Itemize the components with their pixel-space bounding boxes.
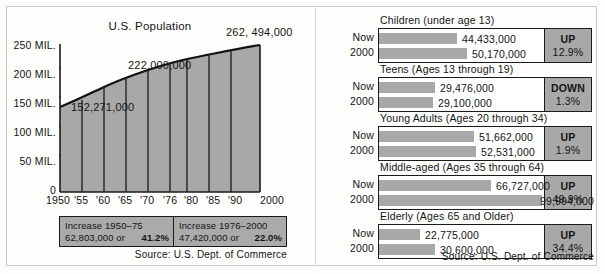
group-title: Elderly (Ages 65 and Older) [380, 210, 514, 222]
row-label-future: 2000 [322, 143, 374, 158]
row-series-labels: Now 2000 [322, 175, 374, 207]
annotation-mid-value: 222,000,000 [128, 59, 191, 71]
row-label-now: Now [322, 177, 374, 192]
bar-now [379, 180, 491, 191]
chart-title: U.S. Population [70, 20, 230, 32]
row-label-future: 2000 [322, 45, 374, 60]
infographic-page: U.S. Population 250 MIL. 200 MIL. 150 MI… [0, 0, 605, 274]
increase-summary-box: Increase 1950–75 62,803,000 or 41.2% Inc… [59, 216, 287, 247]
bar-future [379, 195, 542, 206]
row-series-labels: Now 2000 [322, 28, 374, 60]
trend-direction: UP [561, 131, 576, 144]
row-series-labels: Now 2000 [322, 77, 374, 109]
trend-direction: UP [561, 33, 576, 46]
bar-value-now: 22,775,000 [425, 229, 479, 241]
x-tick-55: '55 [74, 194, 88, 206]
annotation-end-value: 262, 494,000 [226, 26, 293, 38]
group-bar-box: 51,662,000 52,531,000 UP 1.9% [378, 126, 592, 161]
row-label-now: Now [322, 128, 374, 143]
bar-value-now: 66,727,000 [496, 180, 550, 192]
x-tick-2000: 2000 [260, 194, 284, 206]
age-group-comparison-panel: Children (under age 13) Now 2000 44,433,… [322, 8, 597, 266]
trend-percent: 1.3% [556, 95, 581, 108]
y-tick-50: 50 MIL. [20, 155, 56, 167]
bar-now [379, 33, 457, 44]
increase-note-row: 62,803,000 or 41.2% [65, 232, 169, 244]
row-series-labels: Now 2000 [322, 126, 374, 158]
increase-note-percent: 22.0% [255, 232, 282, 244]
bar-value-future: 99,994,000 [540, 195, 594, 207]
trend-direction: UP [561, 229, 576, 242]
trend-badge: UP 1.9% [544, 127, 591, 160]
group-title: Children (under age 13) [380, 14, 494, 26]
y-tick-100: 100 MIL. [14, 126, 56, 138]
bar-row-future: 99,994,000 [379, 195, 594, 206]
group-title: Young Adults (Ages 20 through 34) [380, 112, 547, 124]
y-tick-250: 250 MIL. [14, 39, 56, 51]
bar-value-future: 52,531,000 [481, 146, 535, 158]
bar-row-now: 22,775,000 [379, 229, 479, 240]
increase-note-value: 62,803,000 or [65, 232, 125, 244]
bar-row-future: 50,170,000 [379, 48, 526, 59]
annotation-start-value: 152,271,000 [71, 101, 134, 113]
bar-now [379, 229, 420, 240]
bars-area: 51,662,000 52,531,000 [379, 127, 544, 160]
trend-badge: DOWN 1.3% [544, 78, 591, 111]
trend-badge: UP 12.9% [544, 29, 591, 62]
x-tick-76: '76 [163, 194, 177, 206]
increase-note-row: 47,420,000 or 22.0% [179, 232, 282, 244]
trend-direction: DOWN [551, 82, 585, 95]
y-tick-200: 200 MIL. [14, 68, 56, 80]
trend-percent: 12.9% [553, 46, 584, 59]
us-population-area-chart-panel: U.S. Population 250 MIL. 200 MIL. 150 MI… [8, 8, 313, 266]
row-label-now: Now [322, 30, 374, 45]
bar-future [379, 97, 433, 108]
row-label-future: 2000 [322, 192, 374, 207]
increase-note-title: Increase 1950–75 [65, 220, 169, 232]
right-source-credit: Source: U.S. Dept. of Commerce [322, 251, 594, 262]
increase-note-title: Increase 1976–2000 [179, 220, 282, 232]
group-bar-box: 44,433,000 50,170,000 UP 12.9% [378, 28, 592, 63]
increase-note-1950-75: Increase 1950–75 62,803,000 or 41.2% [60, 217, 173, 246]
group-bar-box: 66,727,000 99,994,000 UP 49.9% [378, 175, 592, 210]
increase-note-value: 47,420,000 or [179, 232, 239, 244]
bars-area: 66,727,000 99,994,000 [379, 176, 544, 209]
bar-value-future: 29,100,000 [438, 97, 492, 109]
bar-row-now: 51,662,000 [379, 131, 533, 142]
panel-divider [315, 8, 316, 266]
bars-area: 29,476,000 29,100,000 [379, 78, 544, 111]
bar-future [379, 146, 476, 157]
bar-row-now: 44,433,000 [379, 33, 516, 44]
x-tick-65: '65 [118, 194, 132, 206]
bar-row-future: 52,531,000 [379, 146, 535, 157]
bar-row-future: 29,100,000 [379, 97, 492, 108]
y-tick-150: 150 MIL. [14, 97, 56, 109]
group-title: Teens (Ages 13 through 19) [380, 63, 513, 75]
group-title: Middle-aged (Ages 35 through 64) [380, 161, 544, 173]
bar-value-future: 50,170,000 [472, 48, 526, 60]
bars-area: 44,433,000 50,170,000 [379, 29, 544, 62]
bar-future [379, 48, 467, 59]
increase-note-percent: 41.2% [142, 232, 169, 244]
row-label-now: Now [322, 226, 374, 241]
x-tick-60: '60 [96, 194, 110, 206]
left-source-credit: Source: U.S. Dept. of Commerce [59, 249, 287, 260]
bar-value-now: 44,433,000 [462, 33, 516, 45]
group-bar-box: 29,476,000 29,100,000 DOWN 1.3% [378, 77, 592, 112]
trend-percent: 1.9% [556, 144, 581, 157]
y-axis-labels: 250 MIL. 200 MIL. 150 MIL. 100 MIL. 50 M… [8, 8, 56, 208]
bar-value-now: 29,476,000 [440, 82, 494, 94]
bar-row-now: 29,476,000 [379, 82, 494, 93]
bar-now [379, 82, 435, 93]
increase-note-1976-2000: Increase 1976–2000 47,420,000 or 22.0% [173, 217, 286, 246]
x-tick-70: '70 [140, 194, 154, 206]
x-tick-80: '80 [184, 194, 198, 206]
x-tick-85: '85 [206, 194, 220, 206]
x-tick-90: '90 [228, 194, 242, 206]
row-label-future: 2000 [322, 94, 374, 109]
x-tick-1950: 1950 [46, 194, 70, 206]
bar-value-now: 51,662,000 [479, 131, 533, 143]
trend-direction: UP [561, 180, 576, 193]
x-axis-labels: 1950 '55 '60 '65 '70 '76 '80 '85 '90 200… [8, 194, 313, 210]
bar-now [379, 131, 474, 142]
